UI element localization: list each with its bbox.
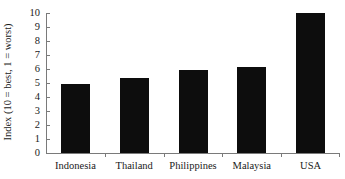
- y-tick-mark: [46, 55, 50, 56]
- x-tick-mark: [281, 153, 282, 157]
- y-tick-label: 2: [35, 118, 40, 131]
- plot-area: 012345678910: [46, 13, 340, 153]
- x-axis-label: USA: [300, 159, 321, 172]
- y-tick-mark: [46, 83, 50, 84]
- y-tick-label: 6: [35, 62, 40, 75]
- y-tick-label: 5: [35, 76, 40, 89]
- y-tick-label: 9: [35, 20, 40, 33]
- y-tick-label: 8: [35, 34, 40, 47]
- x-axis-label: Thailand: [116, 159, 153, 172]
- y-tick-mark: [46, 41, 50, 42]
- y-tick-mark: [46, 97, 50, 98]
- x-tick-mark: [164, 153, 165, 157]
- y-tick-mark: [46, 153, 50, 154]
- bar-chart: Index (10 = best, 1 = worst) 01234567891…: [0, 0, 345, 179]
- bar: [296, 13, 325, 153]
- x-axis-label: Indonesia: [55, 159, 96, 172]
- x-tick-mark: [339, 153, 340, 157]
- x-axis-label: Philippines: [169, 159, 216, 172]
- y-tick-mark: [46, 27, 50, 28]
- y-tick-mark: [46, 111, 50, 112]
- y-axis-title: Index (10 = best, 1 = worst): [1, 7, 15, 157]
- y-tick-mark: [46, 69, 50, 70]
- y-tick-mark: [46, 125, 50, 126]
- bar: [237, 67, 266, 153]
- y-tick-mark: [46, 13, 50, 14]
- x-tick-mark: [222, 153, 223, 157]
- y-tick-label: 1: [35, 132, 40, 145]
- y-tick-label: 7: [35, 48, 40, 61]
- x-axis-label: Malaysia: [233, 159, 272, 172]
- y-tick-label: 0: [35, 146, 40, 159]
- bar: [61, 84, 90, 153]
- y-tick-mark: [46, 139, 50, 140]
- y-tick-label: 10: [30, 6, 41, 19]
- bar: [179, 70, 208, 153]
- x-axis-line: [46, 153, 340, 154]
- bar: [120, 78, 149, 153]
- y-tick-label: 3: [35, 104, 40, 117]
- x-tick-mark: [105, 153, 106, 157]
- y-tick-label: 4: [35, 90, 40, 103]
